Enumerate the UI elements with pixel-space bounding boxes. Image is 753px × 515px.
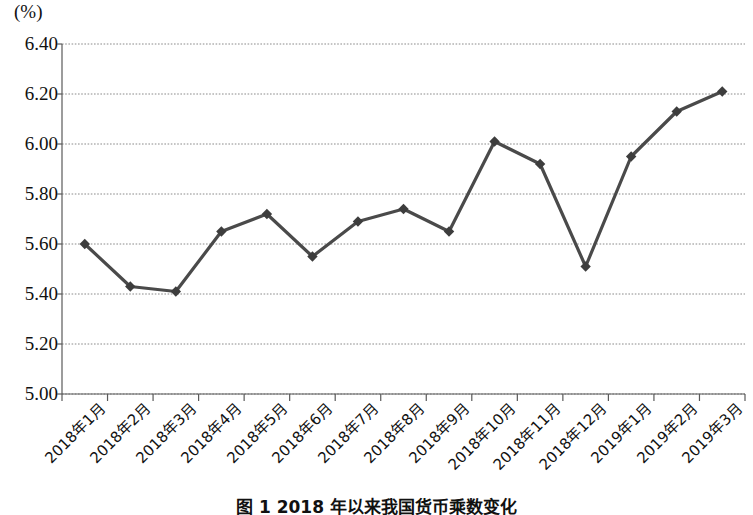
x-axis-tick-label: 2018年10月 [445, 400, 518, 473]
y-axis-tick-label: 5.60 [0, 234, 58, 253]
x-axis-tick-label: 2018年8月 [361, 400, 427, 466]
data-point-markers [80, 86, 728, 296]
x-axis-tick-label: 2018年11月 [490, 400, 563, 473]
y-axis-tick-label: 5.00 [0, 384, 58, 403]
x-axis-tick-label: 2018年3月 [133, 400, 199, 466]
y-axis-tick-label: 5.80 [0, 184, 58, 203]
line-chart-svg [62, 44, 745, 394]
data-point-marker [717, 86, 727, 96]
x-axis-tick-label: 2019年1月 [588, 400, 654, 466]
y-axis-tick-label: 6.40 [0, 34, 58, 53]
data-point-marker [444, 226, 454, 236]
x-axis-tick-label: 2018年7月 [315, 400, 381, 466]
y-axis-tick-labels: 6.406.206.005.805.605.405.205.00 [0, 0, 58, 515]
y-axis-tick-label: 5.20 [0, 334, 58, 353]
y-axis-tick-label: 6.00 [0, 134, 58, 153]
x-axis-tick-label: 2019年2月 [634, 400, 700, 466]
x-axis-tick-label: 2018年9月 [406, 400, 472, 466]
x-axis-tick-label: 2018年12月 [536, 400, 609, 473]
data-series-line [85, 92, 722, 292]
figure-container: (%) 6.406.206.005.805.605.405.205.00 201… [0, 0, 753, 515]
axes-group [57, 44, 745, 394]
x-axis-tick-label: 2018年6月 [269, 400, 335, 466]
x-axis-tick-label: 2018年2月 [87, 400, 153, 466]
data-point-marker [489, 136, 499, 146]
x-axis-tick-label: 2019年3月 [679, 400, 745, 466]
y-axis-tick-label: 6.20 [0, 84, 58, 103]
data-point-marker [398, 204, 408, 214]
x-axis-tick-label: 2018年5月 [224, 400, 290, 466]
data-point-marker [580, 261, 590, 271]
gridlines-group [62, 44, 745, 394]
data-point-marker [535, 159, 545, 169]
plot-area [62, 44, 745, 394]
x-axis-ticks-group [62, 394, 745, 401]
y-axis-tick-label: 5.40 [0, 284, 58, 303]
series-polyline [85, 92, 722, 292]
figure-caption: 图 1 2018 年以来我国货币乘数变化 [0, 497, 753, 515]
x-axis-tick-label: 2018年4月 [178, 400, 244, 466]
